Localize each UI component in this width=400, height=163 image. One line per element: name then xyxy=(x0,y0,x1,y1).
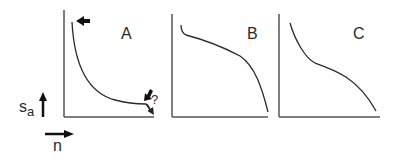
panel-a-label: A xyxy=(121,26,132,42)
panel-c-label: C xyxy=(353,26,365,42)
panel-a-question-mark: ? xyxy=(151,93,158,106)
y-axis-symbol: s xyxy=(19,98,27,115)
y-arrow-head xyxy=(39,92,47,101)
y-axis-subscript: a xyxy=(27,104,34,119)
x-arrow-head xyxy=(64,130,74,138)
panel-a-curve xyxy=(72,22,150,110)
panel-b-label: B xyxy=(247,26,258,42)
y-axis-label: sa xyxy=(19,99,34,115)
x-axis-label: n xyxy=(53,138,62,154)
left-arrow-icon xyxy=(76,16,90,26)
panel-c xyxy=(279,14,380,117)
panel-a xyxy=(64,10,154,117)
